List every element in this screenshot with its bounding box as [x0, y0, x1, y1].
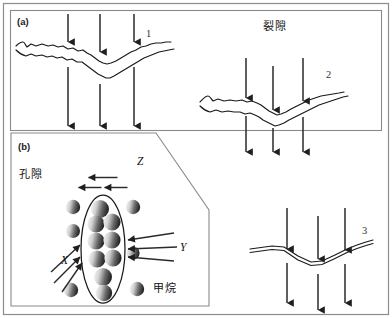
stage-3-number: 3	[362, 226, 367, 237]
fissure-label: 裂隙	[263, 21, 286, 32]
methane-molecule	[94, 268, 112, 286]
methane-molecule	[104, 249, 121, 266]
axis-z-label: Z	[137, 156, 143, 168]
stage-1-number: 1	[146, 29, 151, 40]
methane-molecule	[66, 200, 80, 214]
panel-b-label: (b)	[18, 142, 30, 152]
methane-label: 甲烷	[153, 283, 176, 294]
methane-molecule	[87, 232, 104, 249]
axis-x-label: X	[61, 255, 68, 267]
methane-molecule	[103, 231, 120, 248]
outer-frame	[4, 4, 389, 315]
methane-molecule	[64, 283, 78, 297]
methane-molecule	[88, 250, 105, 267]
methane-molecule	[103, 213, 120, 230]
pore-label: 孔隙	[19, 169, 42, 180]
methane-molecule	[87, 215, 104, 232]
methane-molecule	[130, 282, 144, 296]
panel-a-label: (a)	[17, 17, 29, 27]
methane-molecule	[66, 224, 80, 238]
axis-y-label: Y	[180, 242, 186, 254]
figure-drawing	[0, 0, 392, 318]
figure-container: (a) (b) 1 2 3 裂隙 孔隙 甲烷 X Y Z	[0, 0, 392, 318]
methane-molecule	[96, 285, 112, 301]
stage-2-number: 2	[326, 70, 331, 81]
methane-molecule	[126, 200, 140, 214]
methane-molecule	[91, 200, 109, 218]
